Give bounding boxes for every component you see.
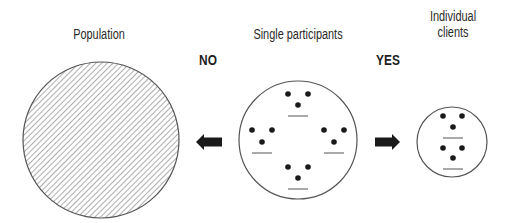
dot bbox=[331, 139, 337, 145]
dot bbox=[450, 124, 456, 130]
dot bbox=[285, 91, 291, 97]
no-label: NO bbox=[199, 53, 217, 68]
individual-clients-label-line2: clients bbox=[438, 25, 469, 40]
dot bbox=[269, 127, 275, 133]
dot bbox=[459, 113, 465, 119]
dot bbox=[295, 102, 301, 108]
arrow-right-icon bbox=[375, 134, 400, 150]
population-node bbox=[23, 62, 179, 218]
dot bbox=[249, 127, 255, 133]
individual-clients-node bbox=[417, 107, 487, 177]
dot bbox=[459, 145, 465, 151]
participant-group bbox=[440, 145, 465, 169]
arrows-layer bbox=[196, 134, 400, 150]
individual-clients-circle bbox=[417, 107, 487, 177]
participant-group bbox=[321, 127, 347, 153]
arrow-left-icon bbox=[196, 134, 222, 150]
participant-group bbox=[249, 127, 275, 153]
nodes-layer bbox=[23, 62, 487, 218]
single-participants-label: Single participants bbox=[253, 27, 342, 42]
dot bbox=[295, 175, 301, 181]
participant-group bbox=[285, 91, 311, 116]
dot bbox=[341, 127, 347, 133]
participant-group bbox=[285, 164, 311, 189]
population-label: Population bbox=[73, 27, 125, 42]
participant-group bbox=[440, 113, 465, 138]
dot bbox=[321, 127, 327, 133]
dot bbox=[259, 139, 265, 145]
yes-label: YES bbox=[376, 53, 400, 68]
individual-clients-label-line1: Individual bbox=[430, 9, 476, 24]
dot bbox=[305, 164, 311, 170]
single-participants-circle bbox=[239, 81, 357, 199]
dot bbox=[450, 155, 456, 161]
dot bbox=[305, 91, 311, 97]
dot bbox=[440, 113, 446, 119]
single-participants-node bbox=[239, 81, 357, 199]
dot bbox=[285, 164, 291, 170]
dot bbox=[440, 145, 446, 151]
population-circle bbox=[23, 62, 179, 218]
